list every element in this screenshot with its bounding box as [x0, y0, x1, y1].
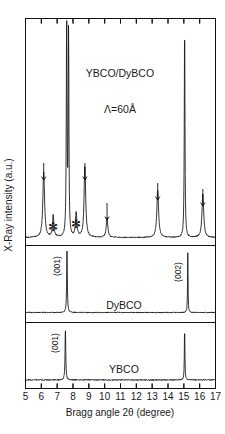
dybco-peak-label-001: (001)	[52, 256, 62, 276]
satellite-arrow-10.15	[105, 203, 109, 220]
satellite-arrow-13.35	[156, 183, 160, 200]
xtick-label-final-9: 9	[86, 391, 92, 402]
ybco-label: YBCO	[109, 363, 139, 375]
period-label: Λ=60Å	[104, 103, 136, 115]
xtick-label-final-17: 17	[210, 391, 222, 402]
dybco-label: DyBCO	[106, 299, 142, 311]
xrd-figure: 567891011121314151617Bragg angle 2θ (deg…	[0, 0, 224, 434]
xtick-label-final-10: 10	[99, 391, 111, 402]
impurity-asterisk-8.2: ✻	[71, 217, 81, 231]
xtick-label-final-6: 6	[39, 391, 45, 402]
satellite-arrow-16.2	[201, 189, 205, 206]
ybco-peak-label-001: (001)	[50, 333, 60, 353]
xrd-plot-svg: 567891011121314151617Bragg angle 2θ (deg…	[0, 0, 224, 434]
xtick-label-final-8: 8	[70, 391, 76, 402]
xtick-label-final-12: 12	[131, 391, 143, 402]
xtick-label-final-13: 13	[147, 391, 159, 402]
satellite-arrow-6.15	[42, 163, 46, 180]
xtick-label-final-11: 11	[115, 391, 126, 402]
panel-frame-redraw-superlattice	[26, 19, 216, 246]
superlattice-label: YBCO/DyBCO	[86, 67, 154, 79]
top-mask	[0, 0, 224, 19]
trace-superlattice	[26, 21, 216, 238]
xtick-label-final-7: 7	[54, 391, 60, 402]
x-axis-label-final: Bragg angle 2θ (degree)	[66, 407, 174, 418]
dybco-peak-label-002: (002)	[173, 262, 183, 282]
xtick-label-final-14: 14	[162, 391, 174, 402]
panel-frame-final-superlattice	[26, 19, 216, 246]
satellite-arrow-8.75	[83, 163, 87, 180]
xtick-label-final-5: 5	[23, 391, 29, 402]
xtick-label-final-15: 15	[178, 391, 190, 402]
panel-frame-superlattice	[26, 19, 216, 246]
y-axis-label-final: X-Ray intensity (a.u.)	[3, 158, 14, 251]
impurity-asterisk-6.75: ✻	[48, 220, 58, 234]
right-mask	[216, 0, 225, 434]
xtick-label-final-16: 16	[194, 391, 206, 402]
